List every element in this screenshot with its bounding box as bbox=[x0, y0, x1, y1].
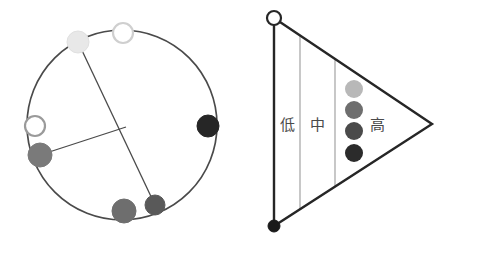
node-very-light bbox=[67, 31, 89, 53]
figure-canvas: 低中高 bbox=[0, 0, 484, 253]
figure-root: 低中高 bbox=[0, 0, 484, 253]
triangle-outline bbox=[274, 18, 432, 226]
gradient-dot-dark bbox=[345, 122, 363, 140]
node-open-top bbox=[113, 23, 133, 43]
triangle-vertex-open-top bbox=[267, 11, 281, 25]
triangle-vertex-filled-bottom bbox=[268, 220, 280, 232]
chord-light-to-dark bbox=[78, 42, 155, 205]
circular-network-diagram bbox=[25, 23, 219, 223]
circle-node-group bbox=[25, 23, 219, 223]
triangular-gradient-diagram: 低中高 bbox=[267, 11, 432, 232]
node-open-left bbox=[25, 116, 45, 136]
node-mid-gray-bottom bbox=[112, 199, 136, 223]
chord-left-to-junction bbox=[40, 127, 126, 155]
gradient-dot-group bbox=[345, 80, 363, 162]
band-label-group: 低中高 bbox=[280, 116, 385, 134]
node-dark-gray-bottom bbox=[145, 195, 165, 215]
gradient-dot-lightest bbox=[345, 80, 363, 98]
outer-circle-ring bbox=[27, 30, 217, 220]
node-mid-gray-left bbox=[28, 143, 52, 167]
gradient-dot-light bbox=[345, 101, 363, 119]
band-label-low: 低 bbox=[280, 116, 295, 134]
band-label-medium: 中 bbox=[310, 116, 325, 134]
node-black-right bbox=[197, 115, 219, 137]
gradient-dot-darkest bbox=[345, 144, 363, 162]
band-label-high: 高 bbox=[370, 116, 385, 134]
